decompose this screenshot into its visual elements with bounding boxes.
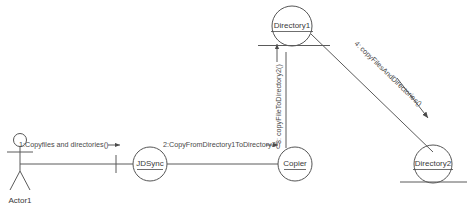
link-actor1-jdsync[interactable] — [20, 155, 133, 173]
actor-leg-right — [20, 171, 30, 190]
message-1-label: 1:Copyfiles and directories() — [19, 140, 108, 149]
uml-communication-diagram: Actor1 1:Copyfiles and directories() JDS… — [0, 0, 470, 210]
object-directory2[interactable]: Directory2 — [400, 145, 467, 183]
message-2-label: 2:CopyFromDirectory1ToDirectory2() — [163, 140, 280, 149]
message-4-label: 4: copyFilesAndDirectories() — [353, 39, 424, 108]
actor-label-actor1: Actor1 — [8, 196, 32, 205]
actor-leg-left — [10, 171, 20, 190]
object-label-copier: Copier — [283, 159, 307, 168]
object-label-directory2: Directory2 — [415, 159, 452, 168]
object-label-directory1: Directory1 — [274, 21, 311, 30]
diagram-canvas: Actor1 1:Copyfiles and directories() JDS… — [0, 0, 470, 210]
object-jdsync[interactable]: JDSync — [133, 147, 167, 181]
object-label-jdsync: JDSync — [136, 159, 164, 168]
message-3-label: 3: copyFileToDirectory2() — [274, 64, 283, 144]
object-directory1[interactable]: Directory1 — [258, 6, 330, 46]
object-copier[interactable]: Copier — [278, 147, 312, 181]
